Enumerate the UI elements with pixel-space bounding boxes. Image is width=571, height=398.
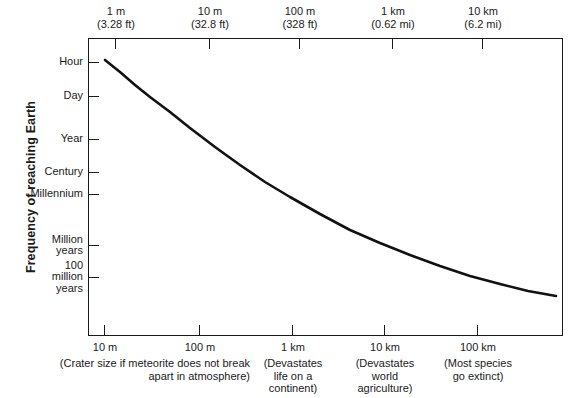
y-tick-label-2: Year	[4, 133, 88, 145]
y-tick-2	[88, 139, 99, 140]
x-top-tick-0	[115, 38, 116, 49]
note-devastates-continent: (Devastates life on a continent)	[245, 357, 341, 395]
x-top-tick-label-0: 1 m (3.28 ft)	[68, 5, 164, 30]
x-top-tick-2	[299, 38, 300, 49]
x-bottom-tick-0	[104, 325, 105, 336]
x-top-tick-1	[209, 38, 210, 49]
y-tick-4	[88, 194, 99, 195]
x-top-tick-4	[482, 38, 483, 49]
y-tick-label-1: Day	[4, 90, 88, 102]
y-tick-label-4: Millennium	[4, 188, 88, 200]
plot-frame	[88, 38, 563, 336]
y-tick-label-5: Million years	[4, 234, 88, 257]
x-bottom-tick-label-2: 1 km	[245, 341, 341, 354]
y-tick-label-6: 100 million years	[4, 260, 88, 295]
x-bottom-tick-label-0: 10 m	[57, 341, 153, 354]
y-tick-6	[88, 277, 99, 278]
note-crater-size: (Crater size if meteorite does not break…	[30, 357, 250, 382]
x-bottom-tick-4	[477, 325, 478, 336]
x-bottom-tick-label-4: 100 km	[430, 341, 526, 354]
x-top-tick-label-3: 1 km (0.62 mi)	[345, 5, 441, 30]
y-tick-0	[88, 62, 99, 63]
y-tick-5	[88, 245, 99, 246]
y-tick-label-0: Hour	[4, 56, 88, 68]
x-top-tick-3	[392, 38, 393, 49]
y-tick-label-3: Century	[4, 166, 88, 178]
x-bottom-tick-3	[384, 325, 385, 336]
note-most-species-extinct: (Most species go extinct)	[430, 357, 526, 382]
x-bottom-tick-1	[199, 325, 200, 336]
impact-frequency-chart: Frequency of reaching Earth HourDayYearC…	[0, 0, 571, 398]
x-bottom-tick-label-1: 100 m	[152, 341, 248, 354]
x-bottom-tick-2	[292, 325, 293, 336]
note-devastates-agriculture: (Devastates world agriculture)	[337, 357, 433, 395]
y-tick-1	[88, 96, 99, 97]
x-top-tick-label-1: 10 m (32.8 ft)	[162, 5, 258, 30]
x-top-tick-label-2: 100 m (328 ft)	[252, 5, 348, 30]
y-tick-3	[88, 172, 99, 173]
x-bottom-tick-label-3: 10 km	[337, 341, 433, 354]
x-top-tick-label-4: 10 km (6.2 mi)	[435, 5, 531, 30]
